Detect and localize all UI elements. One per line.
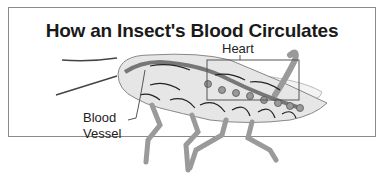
antenna-icon: [62, 58, 117, 61]
blood-vessel-label-line1: Blood: [83, 110, 116, 125]
antenna-icon: [56, 76, 117, 95]
insect-illustration: [0, 0, 384, 193]
blood-vessel-label-line2: Vessel: [83, 126, 121, 141]
heart-label: Heart: [222, 41, 254, 56]
